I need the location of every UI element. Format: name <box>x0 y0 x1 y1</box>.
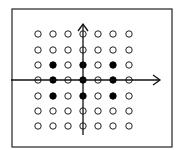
open-point <box>110 47 116 53</box>
open-point <box>95 47 101 53</box>
filled-point <box>110 62 116 68</box>
open-point <box>35 123 41 129</box>
filled-point <box>50 93 56 99</box>
open-point <box>65 47 71 53</box>
open-point <box>50 31 56 37</box>
open-point <box>35 108 41 114</box>
open-point <box>50 108 56 114</box>
open-point <box>65 93 71 99</box>
open-point <box>50 123 56 129</box>
open-point <box>126 31 132 37</box>
open-point <box>95 62 101 68</box>
open-point <box>35 62 41 68</box>
open-point <box>126 108 132 114</box>
open-point <box>126 47 132 53</box>
open-point <box>95 31 101 37</box>
open-point <box>95 108 101 114</box>
open-point <box>65 108 71 114</box>
filled-point <box>50 62 56 68</box>
open-point <box>126 62 132 68</box>
open-point <box>65 123 71 129</box>
open-point <box>35 31 41 37</box>
lattice-diagram <box>0 0 179 150</box>
open-point <box>110 31 116 37</box>
coordinate-axes <box>11 24 160 135</box>
open-point <box>110 108 116 114</box>
open-point <box>95 123 101 129</box>
open-point <box>50 47 56 53</box>
open-point <box>35 93 41 99</box>
open-point <box>110 123 116 129</box>
open-point <box>65 62 71 68</box>
open-point <box>126 93 132 99</box>
open-point <box>126 123 132 129</box>
filled-point <box>110 93 116 99</box>
open-point <box>95 93 101 99</box>
open-point <box>65 31 71 37</box>
open-point <box>35 47 41 53</box>
